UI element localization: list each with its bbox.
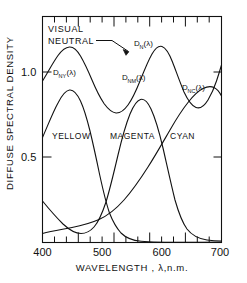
x-axis-ticks-bottom — [55, 233, 210, 243]
curve-label-d-ny-sub: NY — [59, 73, 67, 79]
curve-label-d-ny-arg: (λ) — [67, 68, 77, 77]
curve-label-d-nc-sub: NC — [188, 88, 196, 94]
curve-label-d-nc-arg: (λ) — [196, 83, 206, 92]
x-tick-label-500: 500 — [93, 246, 111, 258]
curve-d-nm — [43, 99, 222, 241]
curve-label-d-n: D N (λ) — [134, 39, 153, 50]
visual-neutral-leader — [96, 41, 129, 56]
curve-d-ny — [43, 90, 222, 242]
y-tick-label-0-5: 0.5 — [21, 151, 36, 163]
label-yellow: YELLOW — [52, 131, 90, 141]
x-tick-label-400: 400 — [33, 246, 51, 258]
curve-label-d-nm-arg: (λ) — [136, 73, 146, 82]
curve-label-d-nc: D NC (λ) — [182, 83, 205, 94]
label-cyan: CYAN — [170, 131, 195, 141]
x-axis-title: WAVELENGTH , λ,n.m. — [76, 262, 189, 273]
label-magenta: MAGENTA — [110, 131, 155, 141]
curve-label-d-n-arg: (λ) — [144, 39, 154, 48]
arrowhead-icon — [123, 50, 129, 56]
curve-label-d-nm: D NM (λ) — [122, 73, 146, 84]
label-neutral: NEUTRAL — [48, 36, 94, 46]
chart-figure: DIFFUSE SPECTRAL DENSITY 1.0 0.5 400 500… — [0, 0, 247, 283]
plot-frame — [43, 17, 222, 243]
spectral-density-chart: DIFFUSE SPECTRAL DENSITY 1.0 0.5 400 500… — [0, 0, 247, 283]
x-tick-label-700: 700 — [211, 246, 229, 258]
x-tick-label-600: 600 — [153, 246, 171, 258]
y-axis-title: DIFFUSE SPECTRAL DENSITY — [4, 36, 15, 190]
y-tick-label-1-0: 1.0 — [21, 66, 36, 78]
label-visual: VISUAL — [48, 24, 84, 34]
curve-label-d-ny: D NY (λ) — [53, 68, 76, 79]
